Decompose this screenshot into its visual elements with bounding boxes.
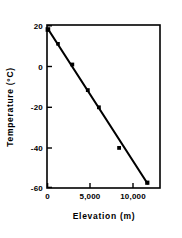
y-tick-label-minus60: -60 <box>31 184 44 193</box>
x-tick-label-0: 0 <box>45 192 50 201</box>
x-tick-label-5000: 5,000 <box>79 192 100 201</box>
plot-frame <box>47 25 160 188</box>
data-point <box>46 27 51 32</box>
x-axis-title: Elevation (m) <box>73 211 135 221</box>
chart-figure: 20 0 -20 -40 -60 0 5,000 10,000 Elevatio… <box>0 0 182 238</box>
data-point <box>97 105 101 109</box>
data-point <box>56 42 60 46</box>
y-tick-label-0: 0 <box>38 63 43 72</box>
data-point <box>117 146 121 150</box>
data-point <box>145 181 149 185</box>
x-tick-label-10000: 10,000 <box>120 192 146 201</box>
x-tick-labels: 0 5,000 10,000 <box>45 192 146 201</box>
data-point <box>86 88 90 92</box>
y-tick-label-minus20: -20 <box>31 103 44 112</box>
y-tick-labels: 20 0 -20 -40 -60 <box>31 22 44 193</box>
y-tick-label-20: 20 <box>34 22 44 31</box>
temperature-elevation-scatter-plot: 20 0 -20 -40 -60 0 5,000 10,000 Elevatio… <box>0 0 182 238</box>
data-point <box>70 63 74 67</box>
y-tick-label-minus40: -40 <box>31 144 44 153</box>
y-axis-title: Temperature (°C) <box>5 67 15 147</box>
